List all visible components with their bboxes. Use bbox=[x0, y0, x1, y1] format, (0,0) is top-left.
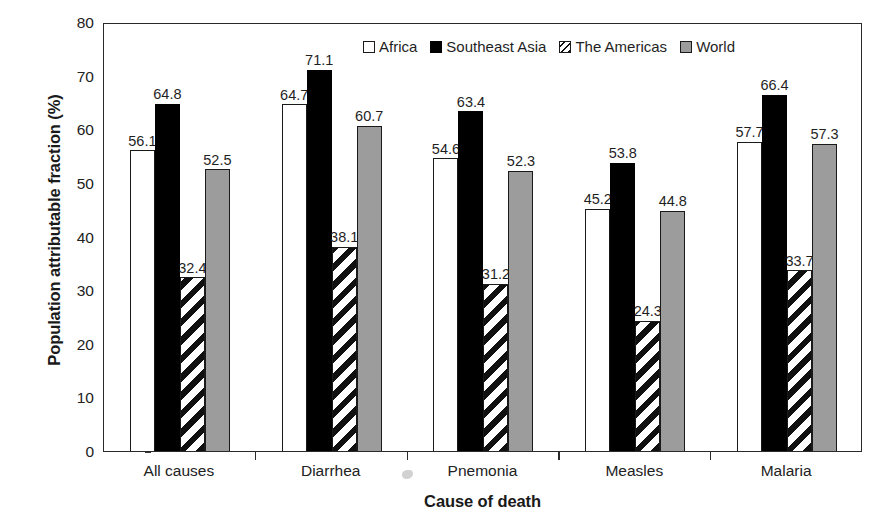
bar[interactable]: 64.8 bbox=[155, 104, 180, 451]
x-axis-tick-mark bbox=[407, 452, 408, 460]
y-axis-tick-label: 70 bbox=[48, 69, 94, 85]
bar[interactable]: 63.4 bbox=[458, 111, 483, 451]
bar-slot: 53.8 bbox=[610, 24, 635, 451]
bar-value-label: 45.2 bbox=[584, 192, 612, 207]
legend-item-label: Southeast Asia bbox=[446, 38, 546, 55]
bar[interactable]: 56.1 bbox=[130, 150, 155, 451]
bar-slot: 56.1 bbox=[130, 24, 155, 451]
bar[interactable]: 71.1 bbox=[307, 70, 332, 451]
bar-value-label: 52.5 bbox=[203, 153, 231, 168]
y-axis-tick-label: 40 bbox=[48, 230, 94, 246]
bar-chart: Population attributable fraction (%) 010… bbox=[0, 0, 881, 530]
bar-slot: 33.7 bbox=[787, 24, 812, 451]
legend-swatch-icon bbox=[559, 41, 571, 53]
bar-value-label: 32.4 bbox=[178, 261, 206, 276]
bar-slot: 66.4 bbox=[762, 24, 787, 451]
x-axis-category-label: Pnemonia bbox=[448, 462, 518, 481]
bar-group: 54.663.431.252.3 bbox=[408, 24, 560, 451]
bar-value-label: 54.6 bbox=[432, 142, 460, 157]
x-axis-tick-mark bbox=[558, 452, 559, 460]
bar-value-label: 53.8 bbox=[609, 146, 637, 161]
legend-item-label: The Americas bbox=[575, 38, 667, 55]
legend-swatch-icon bbox=[363, 41, 375, 53]
bar[interactable]: 33.7 bbox=[787, 270, 812, 451]
bar[interactable]: 66.4 bbox=[762, 95, 787, 451]
bar-value-label: 64.8 bbox=[153, 87, 181, 102]
bar-slot: 54.6 bbox=[433, 24, 458, 451]
y-axis-tick-label: 80 bbox=[48, 15, 94, 31]
bar-value-label: 60.7 bbox=[355, 109, 383, 124]
bars-layer: 56.164.832.452.564.771.138.160.754.663.4… bbox=[104, 24, 861, 451]
bar[interactable]: 64.7 bbox=[282, 104, 307, 451]
bar-slot: 57.3 bbox=[812, 24, 837, 451]
bar-value-label: 71.1 bbox=[305, 53, 333, 68]
x-axis-category-label: Malaria bbox=[761, 462, 812, 481]
bar-value-label: 64.7 bbox=[280, 88, 308, 103]
bar[interactable]: 38.1 bbox=[332, 247, 357, 451]
x-axis-category-labels: All causesDiarrheaPnemoniaMeaslesMalaria bbox=[103, 462, 862, 488]
bar-group: 64.771.138.160.7 bbox=[256, 24, 408, 451]
x-axis-tick-mark bbox=[255, 452, 256, 460]
bar-value-label: 66.4 bbox=[760, 78, 788, 93]
legend-item[interactable]: The Americas bbox=[559, 38, 667, 55]
bar-group-bars: 56.164.832.452.5 bbox=[104, 24, 256, 451]
bar-value-label: 44.8 bbox=[659, 194, 687, 209]
bar-group-bars: 45.253.824.344.8 bbox=[559, 24, 711, 451]
y-axis-tick-label: 50 bbox=[48, 176, 94, 192]
bar[interactable]: 57.3 bbox=[812, 144, 837, 451]
bar-slot: 71.1 bbox=[307, 24, 332, 451]
bar-slot: 64.7 bbox=[282, 24, 307, 451]
bar[interactable]: 45.2 bbox=[585, 209, 610, 451]
bar-group-bars: 64.771.138.160.7 bbox=[256, 24, 408, 451]
legend-swatch-icon bbox=[430, 41, 442, 53]
x-axis-category-label: All causes bbox=[144, 462, 215, 481]
bar[interactable]: 57.7 bbox=[737, 142, 762, 451]
bar-value-label: 52.3 bbox=[507, 154, 535, 169]
y-axis-tick-label: 10 bbox=[48, 391, 94, 407]
bar[interactable]: 32.4 bbox=[180, 277, 205, 451]
bar-slot: 24.3 bbox=[635, 24, 660, 451]
bar-value-label: 63.4 bbox=[457, 95, 485, 110]
bar-value-label: 33.7 bbox=[785, 254, 813, 269]
y-axis-tick-label: 60 bbox=[48, 123, 94, 139]
bar-group-bars: 57.766.433.757.3 bbox=[711, 24, 863, 451]
bar-value-label: 24.3 bbox=[634, 304, 662, 319]
bar[interactable]: 44.8 bbox=[660, 211, 685, 451]
bar-slot: 64.8 bbox=[155, 24, 180, 451]
bar[interactable]: 52.3 bbox=[508, 171, 533, 451]
bar[interactable]: 52.5 bbox=[205, 169, 230, 451]
legend-swatch-icon bbox=[680, 41, 692, 53]
bar[interactable]: 31.2 bbox=[483, 284, 508, 451]
bar-value-label: 31.2 bbox=[482, 267, 510, 282]
bar-group: 45.253.824.344.8 bbox=[559, 24, 711, 451]
bar-slot: 63.4 bbox=[458, 24, 483, 451]
bar-slot: 52.5 bbox=[205, 24, 230, 451]
bar[interactable]: 54.6 bbox=[433, 158, 458, 451]
x-axis-category-label: Measles bbox=[605, 462, 663, 481]
bar-group: 57.766.433.757.3 bbox=[711, 24, 863, 451]
bar[interactable]: 60.7 bbox=[357, 126, 382, 452]
bar-slot: 45.2 bbox=[585, 24, 610, 451]
legend-item[interactable]: Africa bbox=[363, 38, 417, 55]
bar-group-bars: 54.663.431.252.3 bbox=[408, 24, 560, 451]
legend-item[interactable]: World bbox=[680, 38, 735, 55]
y-axis-tick-label: 0 bbox=[48, 444, 94, 460]
bar-slot: 38.1 bbox=[332, 24, 357, 451]
bar-slot: 31.2 bbox=[483, 24, 508, 451]
y-axis-tick-label: 30 bbox=[48, 283, 94, 299]
bar-slot: 44.8 bbox=[660, 24, 685, 451]
bar-value-label: 57.7 bbox=[735, 125, 763, 140]
chart-legend: AfricaSoutheast AsiaThe AmericasWorld bbox=[363, 38, 735, 55]
plot-area: 56.164.832.452.564.771.138.160.754.663.4… bbox=[103, 23, 862, 452]
legend-item[interactable]: Southeast Asia bbox=[430, 38, 546, 55]
legend-item-label: Africa bbox=[379, 38, 417, 55]
bar-slot: 32.4 bbox=[180, 24, 205, 451]
bar[interactable]: 24.3 bbox=[635, 321, 660, 451]
bar-value-label: 38.1 bbox=[330, 230, 358, 245]
x-axis-title: Cause of death bbox=[103, 492, 862, 511]
bar-slot: 60.7 bbox=[357, 24, 382, 451]
bar-value-label: 56.1 bbox=[128, 134, 156, 149]
x-axis-tick-mark bbox=[710, 452, 711, 460]
x-axis-category-label: Diarrhea bbox=[301, 462, 360, 481]
bar[interactable]: 53.8 bbox=[610, 163, 635, 452]
